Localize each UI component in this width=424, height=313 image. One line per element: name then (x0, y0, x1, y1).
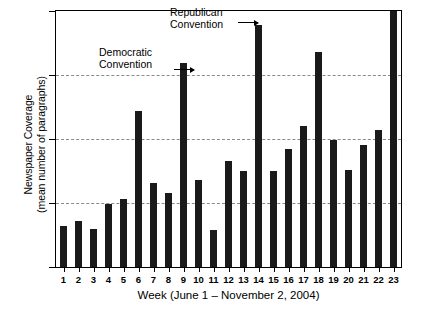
x-axis-tick (64, 267, 65, 272)
y-axis-title-line2: (mean number of paragraphs) (34, 15, 47, 275)
annotation-republican-convention: Republican Convention (170, 6, 223, 30)
x-axis-tick (79, 267, 80, 272)
x-axis-title: Week (June 1 – November 2, 2004) (55, 289, 402, 301)
x-axis-tick (259, 267, 260, 272)
x-axis-tick (109, 267, 110, 272)
x-axis-tick (199, 267, 200, 272)
y-axis-tick (49, 75, 56, 76)
x-axis-tick (379, 267, 380, 272)
x-axis-tick (184, 267, 185, 272)
annotation-republican-line2: Convention (170, 18, 223, 30)
annotation-republican-line1: Republican (170, 6, 223, 18)
bar (135, 111, 143, 267)
newspaper-coverage-bar-chart: Newspaper Coverage (mean number of parag… (0, 0, 424, 313)
bar (255, 25, 263, 267)
bar (180, 63, 188, 267)
bar (165, 193, 173, 267)
bar (390, 11, 398, 267)
annotation-democratic-convention: Democratic Convention (99, 46, 152, 70)
x-axis-tick (229, 267, 230, 272)
x-axis-tick (139, 267, 140, 272)
x-axis-tick (169, 267, 170, 272)
bar (285, 149, 293, 267)
x-axis-tick (154, 267, 155, 272)
x-axis-tick (94, 267, 95, 272)
bar (225, 161, 233, 267)
annotation-democratic-line1: Democratic (99, 46, 152, 58)
annotation-republican-arrow (238, 22, 258, 23)
annotation-democratic-arrow (174, 69, 194, 70)
bar (375, 130, 383, 267)
bar (345, 170, 353, 267)
bar (315, 52, 323, 267)
x-axis-tick (319, 267, 320, 272)
x-axis-tick (274, 267, 275, 272)
bar (360, 145, 368, 267)
bar (270, 171, 278, 267)
y-axis-tick (49, 203, 56, 204)
bar (210, 230, 218, 267)
x-axis-tick (304, 267, 305, 272)
bar (300, 126, 308, 267)
y-axis-tick (49, 139, 56, 140)
annotation-democratic-line2: Convention (99, 58, 152, 70)
x-axis-tick-label: 23 (384, 274, 404, 285)
x-axis-tick (334, 267, 335, 272)
y-axis-title: Newspaper Coverage (mean number of parag… (22, 15, 47, 275)
y-axis-tick (49, 267, 56, 268)
bar (75, 221, 83, 267)
y-axis-title-line1: Newspaper Coverage (22, 15, 35, 275)
x-axis-tick (244, 267, 245, 272)
bar (195, 180, 203, 267)
bar (105, 204, 113, 267)
bar (150, 183, 158, 267)
gridline (56, 139, 401, 140)
bar (120, 199, 128, 267)
y-axis-tick (49, 11, 56, 12)
x-axis-tick (289, 267, 290, 272)
bar (330, 140, 338, 267)
bar (60, 226, 68, 267)
x-axis-tick (364, 267, 365, 272)
bar (90, 229, 98, 267)
x-axis-tick (214, 267, 215, 272)
bar (240, 171, 248, 267)
x-axis-tick (349, 267, 350, 272)
gridline (56, 75, 401, 76)
x-axis-tick (124, 267, 125, 272)
x-axis-tick (394, 267, 395, 272)
